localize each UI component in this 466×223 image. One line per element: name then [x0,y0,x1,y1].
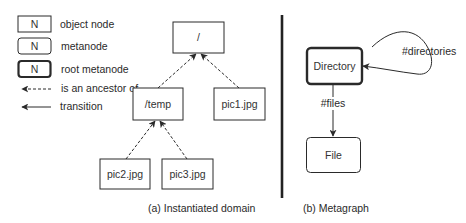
metagraph: #directories #files Directory File (b) M… [303,32,456,214]
legend-ancestor: is an ancestor of [22,82,138,94]
edge-pic3-to-temp [160,121,187,159]
legend: N object node N metanode N root metanode… [18,16,138,112]
legend-label: root metanode [61,63,129,75]
caption-instantiated-domain: (a) Instantiated domain [148,202,256,214]
node-pic2: pic2.jpg [100,159,150,189]
node-pic1: pic1.jpg [214,88,265,120]
node-label: File [325,149,342,161]
edge-pic1-to-root [201,54,239,88]
edge-label-files: #files [321,97,346,109]
diagram-canvas: N object node N metanode N root metanode… [0,0,466,223]
node-label: pic2.jpg [107,168,143,180]
legend-transition: transition [22,100,103,112]
node-label: pic1.jpg [221,98,257,110]
legend-symbol: N [31,18,39,30]
legend-metanode: N metanode [18,38,108,54]
edge-label-directories: #directories [402,45,456,57]
legend-label: is an ancestor of [61,82,138,94]
node-label: pic3.jpg [169,168,205,180]
caption-metagraph: (b) Metagraph [303,202,369,214]
legend-label: metanode [61,40,108,52]
legend-label: object node [60,18,114,30]
legend-root-metanode: N root metanode [19,61,129,77]
edge-temp-to-root [158,54,196,88]
legend-symbol: N [31,40,39,52]
node-file: File [307,138,361,173]
node-temp: /temp [133,88,183,120]
node-root: / [173,22,224,53]
node-label: / [197,31,200,43]
instantiated-domain: / /temp pic1.jpg pic2.jpg pic3.jpg (a) I… [100,22,265,214]
edge-pic2-to-temp [126,121,155,159]
node-label: /temp [145,98,171,110]
legend-symbol: N [31,63,39,75]
legend-label: transition [60,100,103,112]
node-pic3: pic3.jpg [162,159,213,189]
node-directory: Directory [307,48,362,84]
legend-object-node: N object node [18,16,114,32]
node-label: Directory [313,60,356,72]
